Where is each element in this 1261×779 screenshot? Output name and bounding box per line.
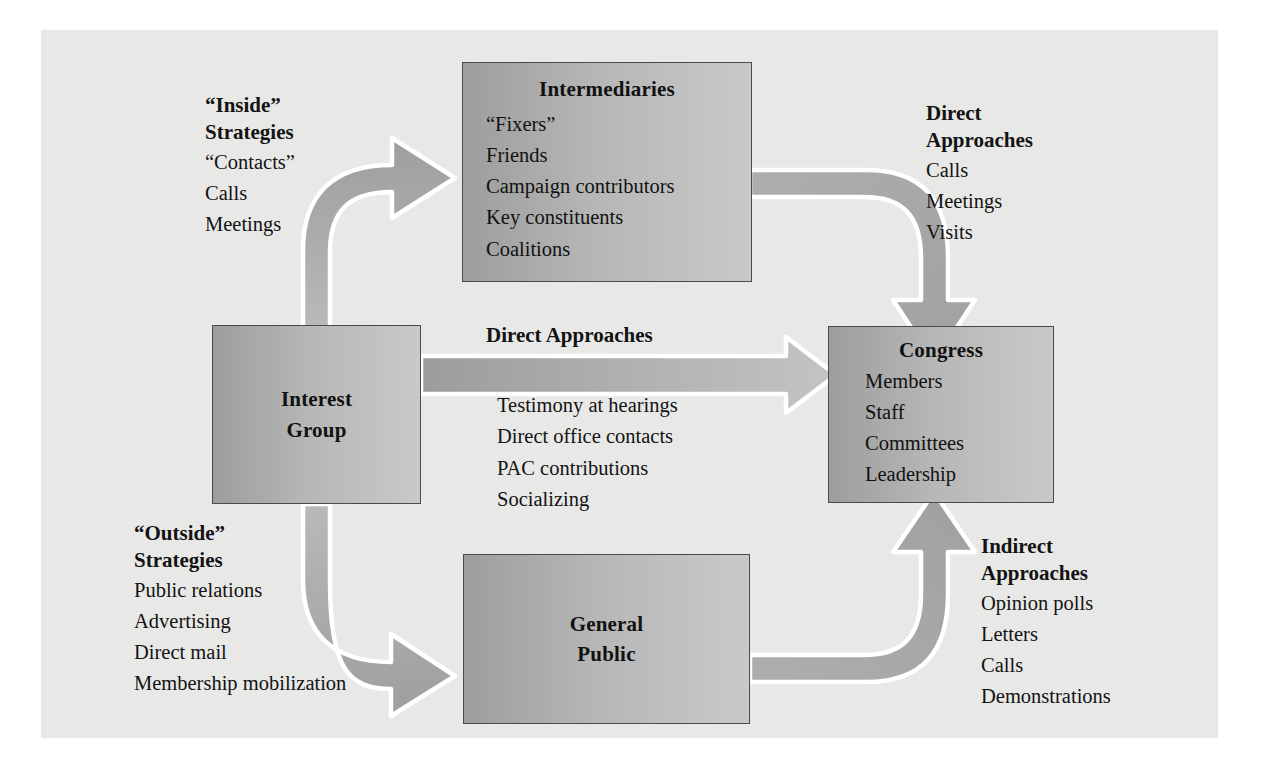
inside-strategies-heading: “Inside” Strategies: [205, 92, 295, 146]
indirect-approaches-item: Calls: [981, 650, 1111, 681]
direct-approaches-center-item-list: Testimony at hearings Direct office cont…: [497, 390, 678, 515]
direct-approaches-right-item: Visits: [926, 217, 1033, 248]
outside-strategies-item: Membership mobilization: [134, 668, 346, 699]
outside-strategies-heading-line2: Strategies: [134, 547, 346, 574]
interest-group-title-line1: Interest: [281, 384, 352, 414]
direct-approaches-center-item: Direct office contacts: [497, 421, 678, 452]
general-public-title: General Public: [570, 609, 644, 670]
node-interest-group[interactable]: Interest Group: [212, 325, 421, 504]
outside-strategies-heading-line1: “Outside”: [134, 520, 346, 547]
congress-item-list: Members Staff Committees Leadership: [829, 366, 1053, 491]
congress-item: Committees: [865, 428, 1053, 459]
arrow-public-to-congress: [750, 492, 975, 682]
intermediaries-item: Campaign contributors: [486, 171, 751, 202]
direct-approaches-right-heading-line2: Approaches: [926, 127, 1033, 154]
indirect-approaches-heading-line1: Indirect: [981, 533, 1111, 560]
label-direct-approaches-center: Direct Approaches: [486, 322, 653, 349]
label-outside-strategies: “Outside” Strategies Public relations Ad…: [134, 520, 346, 699]
inside-strategies-item: Meetings: [205, 209, 295, 240]
congress-item: Staff: [865, 397, 1053, 428]
inside-strategies-heading-line1: “Inside”: [205, 92, 295, 119]
interest-group-title: Interest Group: [281, 384, 352, 445]
direct-approaches-center-item: PAC contributions: [497, 453, 678, 484]
intermediaries-item: Key constituents: [486, 202, 751, 233]
direct-approaches-right-item: Calls: [926, 155, 1033, 186]
intermediaries-item: Friends: [486, 140, 751, 171]
indirect-approaches-item: Letters: [981, 619, 1111, 650]
intermediaries-item-list: “Fixers” Friends Campaign contributors K…: [463, 109, 751, 265]
intermediaries-item: “Fixers”: [486, 109, 751, 140]
direct-approaches-right-item: Meetings: [926, 186, 1033, 217]
arrow-interest-to-intermediaries: [303, 138, 455, 330]
direct-approaches-right-heading: Direct Approaches: [926, 100, 1033, 154]
direct-approaches-right-item-list: Calls Meetings Visits: [926, 155, 1033, 248]
inside-strategies-item: “Contacts”: [205, 147, 295, 178]
indirect-approaches-heading: Indirect Approaches: [981, 533, 1111, 587]
outside-strategies-item: Direct mail: [134, 637, 346, 668]
label-direct-approaches-right: Direct Approaches Calls Meetings Visits: [926, 100, 1033, 248]
inside-strategies-item: Calls: [205, 178, 295, 209]
label-indirect-approaches: Indirect Approaches Opinion polls Letter…: [981, 533, 1111, 712]
node-general-public[interactable]: General Public: [463, 554, 750, 724]
interest-group-title-line2: Group: [281, 415, 352, 445]
outside-strategies-item-list: Public relations Advertising Direct mail…: [134, 575, 346, 700]
congress-title: Congress: [829, 338, 1053, 363]
label-inside-strategies: “Inside” Strategies “Contacts” Calls Mee…: [205, 92, 295, 240]
indirect-approaches-item: Opinion polls: [981, 588, 1111, 619]
inside-strategies-heading-line2: Strategies: [205, 119, 295, 146]
congress-item: Leadership: [865, 459, 1053, 490]
general-public-title-line2: Public: [570, 639, 644, 669]
outside-strategies-item: Advertising: [134, 606, 346, 637]
indirect-approaches-heading-line2: Approaches: [981, 560, 1111, 587]
general-public-title-line1: General: [570, 609, 644, 639]
node-intermediaries[interactable]: Intermediaries “Fixers” Friends Campaign…: [462, 62, 752, 282]
indirect-approaches-item: Demonstrations: [981, 681, 1111, 712]
indirect-approaches-item-list: Opinion polls Letters Calls Demonstratio…: [981, 588, 1111, 713]
direct-approaches-center-heading: Direct Approaches: [486, 322, 653, 349]
congress-item: Members: [865, 366, 1053, 397]
direct-approaches-center-item: Testimony at hearings: [497, 390, 678, 421]
outside-strategies-item: Public relations: [134, 575, 346, 606]
intermediaries-item: Coalitions: [486, 234, 751, 265]
intermediaries-title: Intermediaries: [463, 77, 751, 102]
direct-approaches-right-heading-line1: Direct: [926, 100, 1033, 127]
direct-approaches-center-item: Socializing: [497, 484, 678, 515]
outside-strategies-heading: “Outside” Strategies: [134, 520, 346, 574]
inside-strategies-item-list: “Contacts” Calls Meetings: [205, 147, 295, 240]
node-congress[interactable]: Congress Members Staff Committees Leader…: [828, 326, 1054, 503]
diagram-canvas: Intermediaries “Fixers” Friends Campaign…: [0, 0, 1261, 779]
